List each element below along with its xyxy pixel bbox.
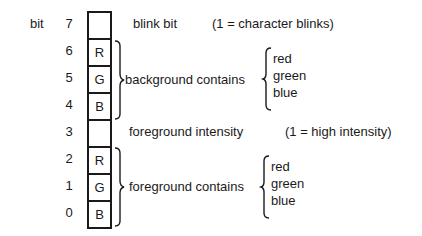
bit-cell-3: [87, 119, 112, 146]
background-green: green: [273, 69, 306, 83]
blink-bit-note: (1 = character blinks): [212, 17, 334, 31]
bit-number-7: 7: [63, 17, 75, 31]
background-contains-label: background contains: [125, 73, 245, 87]
bit-cell-7: [87, 11, 112, 38]
bit-cell-5: G: [87, 65, 112, 92]
bit-heading: bit: [30, 17, 44, 31]
foreground-red: red: [271, 160, 290, 174]
bit-number-4: 4: [63, 98, 75, 112]
bit-cell-2: R: [87, 146, 112, 173]
bit-number-3: 3: [63, 125, 75, 139]
bit-number-1: 1: [63, 179, 75, 193]
foreground-intensity-label: foreground intensity: [129, 125, 243, 139]
bit-cell-0: B: [87, 200, 112, 229]
bit-number-6: 6: [63, 44, 75, 58]
blink-bit-label: blink bit: [133, 17, 177, 31]
bit-cell-4: B: [87, 92, 112, 119]
foreground-blue: blue: [271, 194, 296, 208]
foreground-contains-label: foreground contains: [129, 180, 244, 194]
bit-number-5: 5: [63, 71, 75, 85]
foreground-intensity-note: (1 = high intensity): [285, 125, 392, 139]
background-blue: blue: [273, 86, 298, 100]
bit-number-2: 2: [63, 152, 75, 166]
bit-cell-1: G: [87, 173, 112, 200]
foreground-right-brace-icon: [114, 147, 126, 227]
foreground-left-brace-icon: [260, 155, 270, 219]
background-left-brace-icon: [262, 47, 272, 111]
background-red: red: [273, 52, 292, 66]
foreground-green: green: [271, 177, 304, 191]
bit-number-0: 0: [63, 206, 75, 220]
bit-cell-6: R: [87, 38, 112, 65]
